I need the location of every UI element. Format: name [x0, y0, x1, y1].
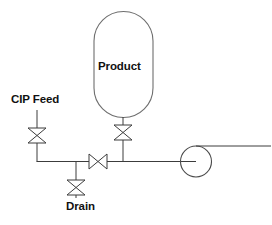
tank-outlet-valve-lower-triangle — [114, 133, 132, 141]
cip-feed-valve-upper-triangle — [28, 128, 46, 136]
drain-valve-lower-triangle — [67, 188, 85, 196]
tank-outlet-valve[interactable] — [114, 125, 132, 140]
cip-feed-label: CIP Feed — [11, 94, 59, 106]
process-flow-diagram — [0, 0, 272, 225]
diagram-canvas: CIP Feed Product Drain — [0, 0, 272, 225]
inline-valve-left-triangle — [89, 154, 98, 169]
cip-feed-valve-lower-triangle — [28, 136, 46, 144]
drain-valve[interactable] — [67, 180, 85, 195]
cip-feed-valve[interactable] — [28, 128, 46, 143]
inline-valve[interactable] — [89, 154, 107, 169]
drain-label: Drain — [66, 201, 95, 213]
inline-valve-right-triangle — [98, 154, 107, 169]
drain-valve-upper-triangle — [67, 180, 85, 188]
tank-outlet-valve-upper-triangle — [114, 125, 132, 133]
product-tank-label: Product — [98, 61, 141, 73]
